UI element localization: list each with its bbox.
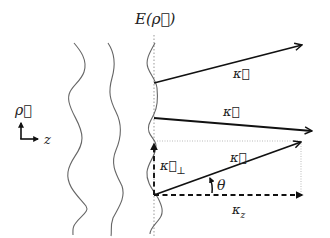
axes-indicator: ρ⃗ z — [14, 102, 51, 147]
field-profile — [147, 43, 162, 234]
kappa-z-label: κz — [231, 202, 246, 220]
rho-axis-label: ρ⃗ — [14, 102, 32, 118]
kappa-vector-2-label: κ⃗ — [222, 104, 240, 119]
kappa-perp-main: κ⃗ — [159, 158, 177, 173]
wavefront-1 — [68, 43, 87, 235]
kappa-vector-3-label: κ⃗ — [229, 150, 247, 165]
kappa-vector-2 — [154, 118, 312, 131]
kappa-perp-sub: ⊥ — [176, 165, 185, 176]
field-label: E(ρ⃗) — [134, 10, 176, 28]
kappa-z-main: κ — [231, 202, 241, 217]
angle-arc-icon — [210, 178, 212, 193]
z-axis-label: z — [43, 132, 51, 147]
wavefront-2 — [108, 43, 123, 236]
kappa-vector-1-label: κ⃗ — [232, 66, 250, 81]
kappa-perp-label: κ⃗⊥ — [159, 158, 186, 176]
kappa-vector-1 — [154, 45, 302, 83]
kappa-z-sub: z — [240, 210, 246, 220]
theta-label: θ — [217, 177, 226, 193]
wave-vector-diagram: E(ρ⃗) ρ⃗ z κ⃗ κ⃗ κ⃗ κ⃗⊥ κz θ — [0, 0, 330, 238]
